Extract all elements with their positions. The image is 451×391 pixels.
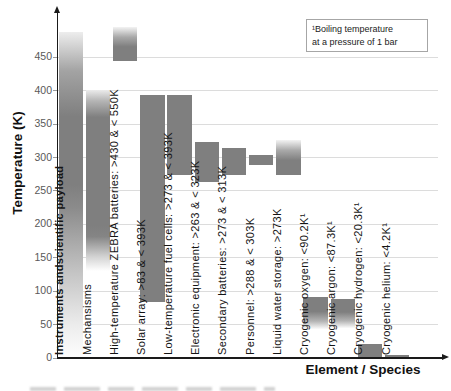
category-label: Personnel: >288 & < 303K — [245, 218, 256, 355]
y-axis-line — [57, 12, 58, 358]
range-bar — [249, 155, 274, 165]
y-tick-label: 150 — [24, 251, 52, 264]
x-axis-arrow-icon — [442, 354, 449, 360]
y-tick-label: 300 — [24, 151, 52, 164]
category-label: Cryogenic argon: <87.3K¹ — [326, 221, 337, 355]
category-label: High-temperature ZEBRA batteries: >430 &… — [109, 89, 120, 355]
category-label: Cryogenic oxygen: <90.2K¹ — [299, 213, 310, 355]
range-bar — [113, 27, 138, 60]
y-tick-label: 400 — [24, 84, 52, 97]
category-label: Solar array: >83 & < 393K — [136, 219, 147, 355]
temperature-range-chart: ¹Boiling temperature at a pressure of 1 … — [0, 0, 451, 391]
y-axis-arrow-icon — [54, 6, 60, 13]
y-axis-title: Temperature (K) — [10, 111, 25, 214]
range-bar — [276, 140, 301, 175]
footnote-line-2: at a pressure of 1 bar — [312, 36, 424, 49]
footnote-line-1: ¹Boiling temperature — [312, 23, 424, 36]
x-axis-title: Element / Species — [306, 362, 421, 377]
category-label: Cryogenic hydrogen: <20.3K¹ — [353, 202, 364, 355]
y-tick-label: 50 — [24, 318, 52, 331]
category-label: Mechansisms — [82, 284, 93, 355]
y-tick-label: 0 — [24, 351, 52, 364]
x-axis-line — [57, 357, 444, 359]
category-label: Cryogenic helium: <4.2K¹ — [381, 223, 392, 355]
range-bar — [86, 90, 111, 271]
y-tick-label: 250 — [24, 184, 52, 197]
category-label: Electronic equipment: >263 & < 323K — [190, 161, 201, 355]
y-tick-label: 100 — [24, 284, 52, 297]
y-tick-label: 350 — [24, 117, 52, 130]
y-tick-label: 450 — [24, 50, 52, 63]
cropped-caption-remnant — [30, 387, 275, 391]
category-label: Liquid water storage: >273K — [272, 208, 283, 355]
category-label: Low-temperature fuel cells: >273 & < 393… — [163, 132, 174, 355]
y-tick-label: 200 — [24, 217, 52, 230]
category-label: Secondary batteries: >273 & < 313K — [217, 166, 228, 355]
category-label: Instruments andscientific payload — [54, 166, 65, 355]
footnote-box: ¹Boiling temperature at a pressure of 1 … — [306, 19, 428, 52]
